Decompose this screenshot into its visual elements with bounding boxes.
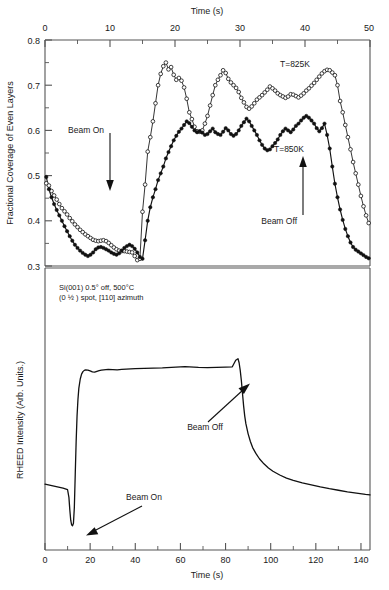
upper-ytick-0_4: 0.4 bbox=[27, 216, 40, 226]
upper-ytick-0_6: 0.6 bbox=[27, 126, 40, 136]
series-label-850k: T=850K bbox=[274, 144, 304, 154]
lower-xtick-20: 20 bbox=[85, 555, 95, 565]
lower-xtick-80: 80 bbox=[221, 555, 231, 565]
upper-ytick-0_7: 0.7 bbox=[27, 81, 40, 91]
upper-yaxis-title: Fractional Coverage of Even Layers bbox=[5, 81, 15, 225]
upper-xaxis-title: Time (s) bbox=[191, 6, 224, 16]
upper-xtick-30: 30 bbox=[235, 23, 245, 33]
lower-xtick-120: 120 bbox=[308, 555, 323, 565]
lower-xtick-0: 0 bbox=[42, 555, 47, 565]
upper-ytick-0_5: 0.5 bbox=[27, 171, 40, 181]
lower-beam-on-label: Beam On bbox=[126, 492, 162, 502]
upper-ytick-0_8: 0.8 bbox=[27, 36, 40, 46]
upper-beam-on-label: Beam On bbox=[68, 125, 104, 135]
figure-container: 0 10 20 30 40 50 Time (s) 0.8 0.7 0.6 0.… bbox=[0, 0, 389, 590]
lower-xaxis-title: Time (s) bbox=[191, 570, 224, 580]
upper-coverage-panel: 0 10 20 30 40 50 Time (s) 0.8 0.7 0.6 0.… bbox=[5, 6, 374, 272]
upper-xtick-50: 50 bbox=[364, 23, 374, 33]
lower-caption-line-2: (0 ½ ) spot, [110] azimuth bbox=[59, 293, 144, 302]
lower-xtick-40: 40 bbox=[130, 555, 140, 565]
lower-plot-area bbox=[45, 268, 370, 550]
upper-xtick-0: 0 bbox=[42, 23, 47, 33]
upper-xtick-10: 10 bbox=[105, 23, 115, 33]
lower-rheed-panel: 0 20 40 60 80 100 120 140 Time (s) RHEED… bbox=[15, 268, 370, 580]
series-label-825k: T=825K bbox=[280, 59, 310, 69]
upper-ytick-0_3: 0.3 bbox=[27, 262, 40, 272]
upper-xtick-20: 20 bbox=[170, 23, 180, 33]
lower-caption-line-1: Si(001) 0.5° off, 500°C bbox=[59, 283, 135, 292]
lower-yaxis-title: RHEED Intensity (Arb. Units.) bbox=[15, 361, 25, 479]
lower-beam-off-label: Beam Off bbox=[187, 422, 223, 432]
upper-xtick-40: 40 bbox=[300, 23, 310, 33]
figure-svg: 0 10 20 30 40 50 Time (s) 0.8 0.7 0.6 0.… bbox=[0, 0, 389, 590]
lower-xtick-140: 140 bbox=[353, 555, 368, 565]
lower-xtick-60: 60 bbox=[175, 555, 185, 565]
upper-beam-off-label: Beam Off bbox=[261, 216, 297, 226]
lower-xtick-100: 100 bbox=[263, 555, 278, 565]
